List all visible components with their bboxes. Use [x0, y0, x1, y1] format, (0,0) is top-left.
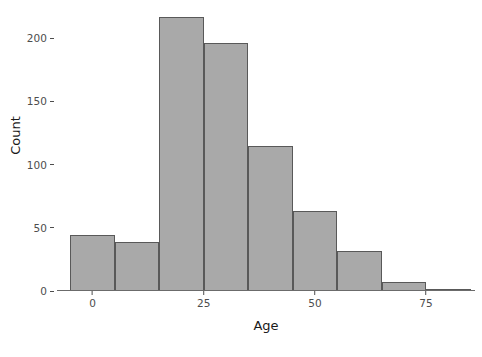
x-tick-mark [314, 291, 315, 295]
x-tick-label: 75 [419, 297, 433, 309]
histogram-bar [248, 146, 292, 291]
y-tick-label: 100 [27, 159, 47, 171]
x-tick-mark [203, 291, 204, 295]
x-tick: 50 [308, 291, 322, 309]
x-tick: 0 [89, 291, 96, 309]
y-tick-label: 0 [40, 285, 47, 297]
x-tick-mark [92, 291, 93, 295]
x-tick: 75 [419, 291, 433, 309]
x-tick: 25 [197, 291, 211, 309]
y-tick-mark [50, 101, 54, 102]
y-tick-mark [50, 291, 54, 292]
bars-layer [57, 8, 475, 291]
y-tick-label: 50 [33, 222, 47, 234]
y-tick: 100 [27, 159, 57, 171]
histogram-bar [70, 235, 114, 291]
y-tick-label: 200 [27, 32, 47, 44]
histogram-bar [115, 242, 159, 291]
y-tick: 50 [33, 222, 57, 234]
y-tick: 150 [27, 95, 57, 107]
y-tick-mark [50, 164, 54, 165]
y-tick-mark [50, 38, 54, 39]
y-axis-title: Count [8, 91, 23, 181]
y-tick-label: 150 [27, 95, 47, 107]
x-tick-label: 25 [197, 297, 211, 309]
histogram-bar [159, 17, 203, 291]
x-tick-label: 50 [308, 297, 322, 309]
y-tick-mark [50, 227, 54, 228]
histogram-bar [293, 211, 337, 291]
x-tick-mark [426, 291, 427, 295]
histogram-figure: 050100150200 0255075 Count Age [0, 0, 482, 357]
y-tick: 0 [40, 285, 57, 297]
histogram-bar [204, 43, 248, 291]
x-axis-title: Age [57, 318, 475, 333]
histogram-bar [337, 251, 381, 291]
x-tick-label: 0 [89, 297, 96, 309]
y-tick: 200 [27, 32, 57, 44]
plot-area [57, 8, 475, 291]
